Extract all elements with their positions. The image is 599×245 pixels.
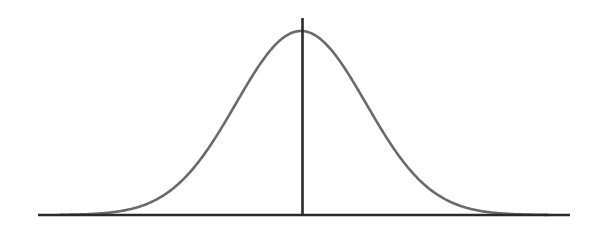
figure-canvas xyxy=(0,0,599,245)
figure-background xyxy=(0,0,599,245)
bell-curve-figure xyxy=(0,0,599,245)
